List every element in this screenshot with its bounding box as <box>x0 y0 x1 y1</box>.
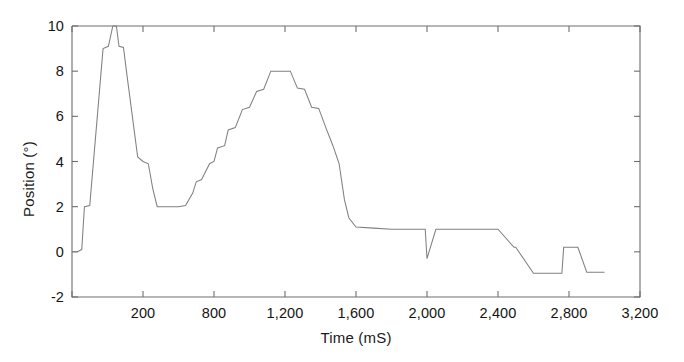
x-tick-label-8: 3,200 <box>622 305 659 321</box>
x-tick-label-4: 1,600 <box>338 305 375 321</box>
x-tick-label-2: 800 <box>202 305 227 321</box>
x-tick-label-1: 200 <box>131 305 156 321</box>
data-series-line <box>72 26 605 273</box>
y-tick-label-1: 0 <box>28 244 64 260</box>
y-tick-label-6: 10 <box>28 18 64 34</box>
axis-box <box>72 26 640 297</box>
y-axis-title: Position (°) <box>20 141 37 217</box>
x-axis-ticks <box>72 26 640 297</box>
axis-frame <box>72 26 640 297</box>
y-axis-ticks <box>72 26 640 297</box>
x-tick-label-3: 1,200 <box>267 305 304 321</box>
x-tick-label-6: 2,400 <box>480 305 517 321</box>
x-tick-label-5: 2,000 <box>409 305 446 321</box>
x-axis-title: Time (mS) <box>276 329 436 346</box>
y-tick-label-4: 6 <box>28 108 64 124</box>
position-vs-time-chart: 2008001,2001,6002,0002,4002,8003,200 -20… <box>0 0 684 362</box>
y-tick-label-0: -2 <box>28 289 64 305</box>
x-tick-label-7: 2,800 <box>551 305 588 321</box>
y-tick-label-5: 8 <box>28 63 64 79</box>
